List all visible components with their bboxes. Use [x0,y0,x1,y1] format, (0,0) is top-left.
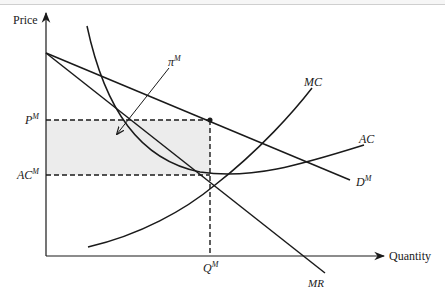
x-axis-label: Quantity [389,249,431,263]
pm-label: PM [24,112,40,127]
y-axis-label: Price [13,13,38,27]
mr-label: MR [307,277,324,289]
acm-label: ACM [16,167,40,182]
monopoly-point [208,118,213,123]
ac-label: AC [358,132,375,146]
profit-area [46,120,210,175]
dm-label: DM [355,174,373,189]
pi-label: πM [168,54,182,69]
qm-label: QM [203,260,220,275]
mc-label: MC [303,75,323,89]
monopoly-diagram: Price Quantity PM ACM QM πM MC AC DM MR [0,0,445,298]
